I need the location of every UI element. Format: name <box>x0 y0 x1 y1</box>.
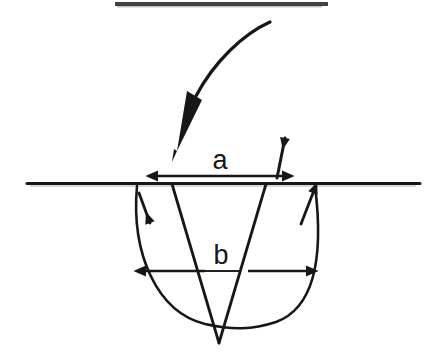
dimension-a-label: a <box>212 145 228 175</box>
top-rule <box>115 2 328 7</box>
flow-arrow-down-left <box>139 193 150 223</box>
figure-container: Schematic cross-section of an indentatio… <box>0 0 428 356</box>
surface-line <box>27 184 420 187</box>
dimension-a: a <box>158 145 282 176</box>
indenter-tip <box>172 91 202 162</box>
dimension-b: b <box>146 240 306 271</box>
indentation-crack-diagram: Schematic cross-section of an indentatio… <box>0 0 428 356</box>
flow-arrow-up-right <box>301 193 313 224</box>
pile-up-arrow <box>277 138 285 178</box>
indenter-arrow <box>172 22 270 162</box>
dimension-b-label: b <box>213 240 228 270</box>
